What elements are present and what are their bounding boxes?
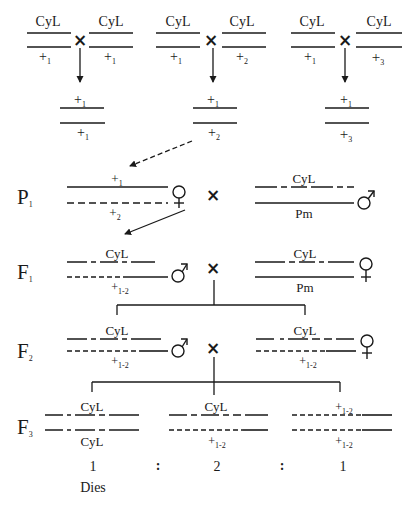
p1-male-upper-label: CyL <box>292 171 315 186</box>
top-cross-3-right-upper-label: CyL <box>367 14 392 29</box>
generation-label-f3: F3 <box>17 415 33 439</box>
f2-right-lower-label: +1-2 <box>299 354 316 370</box>
top-cross-2-offspring-lower-label: +2 <box>208 125 220 142</box>
generation-p1: P1 +1 +2 × CyL Pm <box>17 171 374 222</box>
male-symbol-icon <box>358 191 374 209</box>
male-symbol-icon <box>172 264 187 282</box>
top-cross-2-offspring-upper-label: +1 <box>207 92 219 109</box>
f3-genotype-2-ratio: 2 <box>214 459 221 474</box>
dashed-arrow-icon <box>130 141 192 166</box>
f3-genotype-1-note: Dies <box>80 480 106 495</box>
top-cross-1-offspring-lower-label: +1 <box>77 125 89 142</box>
generation-f2: F2 CyL +1-2 × CyL +1-2 <box>17 323 373 370</box>
arrow-icon <box>125 210 185 234</box>
f3-genotype-1-upper-label: CyL <box>80 399 103 414</box>
generation-label-f1: F1 <box>17 260 33 284</box>
f3-genotype-3-lower-label: +1-2 <box>335 434 352 450</box>
male-symbol-icon <box>172 339 187 357</box>
top-cross-3-offspring-upper-label: +1 <box>340 92 352 109</box>
f3-genotype-1: CyL CyL 1 Dies <box>45 399 143 495</box>
ratio-separator: : <box>280 458 285 473</box>
f2-right-upper-label: CyL <box>293 323 316 338</box>
f1-left-upper-label: CyL <box>105 246 128 261</box>
top-cross-2-right-upper-label: CyL <box>230 14 255 29</box>
top-cross-1-left-lower-label: +1 <box>39 49 51 66</box>
f3-genotype-2-upper-label: CyL <box>204 399 227 414</box>
top-cross-2-left-lower-label: +1 <box>170 49 182 66</box>
cross-symbol: × <box>206 258 220 278</box>
female-symbol-icon <box>361 335 373 359</box>
top-cross-1-right-lower-label: +1 <box>104 49 116 66</box>
crossing-scheme-diagram: CyL +1 × CyL +1 +1 +1 CyL +1 × CyL +2 +1… <box>0 0 419 506</box>
ratio-separator: : <box>156 458 161 473</box>
top-cross-1-right-upper-label: CyL <box>99 14 124 29</box>
generation-label-f2: F2 <box>17 339 33 363</box>
top-cross-1-offspring-upper-label: +1 <box>74 92 86 109</box>
top-cross-2-right-lower-label: +2 <box>236 49 248 66</box>
f3-genotype-1-ratio: 1 <box>90 459 97 474</box>
f3-genotype-2: CyL +1-2 2 <box>169 399 268 474</box>
female-symbol-icon <box>173 186 185 208</box>
f2-left-lower-label: +1-2 <box>111 354 128 370</box>
cross-symbol: × <box>73 30 87 50</box>
top-cross-2: CyL +1 × CyL +2 +1 +2 <box>156 14 266 142</box>
top-cross-1-left-upper-label: CyL <box>36 14 61 29</box>
cross-symbol: × <box>338 30 352 50</box>
cross-symbol: × <box>206 185 220 205</box>
f1-f2-connector <box>117 280 305 315</box>
f1-right-lower-label: Pm <box>296 280 313 295</box>
cross-symbol: × <box>206 338 220 358</box>
cross-symbol: × <box>204 30 218 50</box>
top-cross-1: CyL +1 × CyL +1 +1 +1 <box>27 14 133 142</box>
p1-female-lower-label: +2 <box>109 205 120 222</box>
female-symbol-icon <box>360 258 372 282</box>
top-cross-2-left-upper-label: CyL <box>166 14 191 29</box>
generation-f3: F3 CyL CyL 1 Dies : CyL +1-2 2 : +1-2 <box>17 399 392 495</box>
top-cross-3-left-lower-label: +1 <box>304 49 316 66</box>
top-cross-3-left-upper-label: CyL <box>300 14 325 29</box>
f3-genotype-3-ratio: 1 <box>340 459 347 474</box>
generation-label-p1: P1 <box>17 185 33 209</box>
top-cross-3-offspring-lower-label: +3 <box>340 126 352 144</box>
f1-right-upper-label: CyL <box>293 246 316 261</box>
p1-male-lower-label: Pm <box>295 206 312 221</box>
f3-genotype-1-lower-label: CyL <box>80 434 103 449</box>
top-cross-3-right-lower-label: +3 <box>372 49 384 67</box>
p1-female-upper-label: +1 <box>111 171 122 188</box>
f2-left-upper-label: CyL <box>105 323 128 338</box>
f1-left-lower-label: +1-2 <box>111 280 128 296</box>
f3-genotype-2-lower-label: +1-2 <box>208 434 225 450</box>
generation-f1: F1 CyL +1-2 × CyL Pm <box>17 246 372 296</box>
f3-genotype-3-upper-label: +1-2 <box>335 400 352 416</box>
top-cross-3: CyL +1 × CyL +3 +1 +3 <box>291 14 402 144</box>
f3-genotype-3: +1-2 +1-2 1 <box>292 400 392 474</box>
